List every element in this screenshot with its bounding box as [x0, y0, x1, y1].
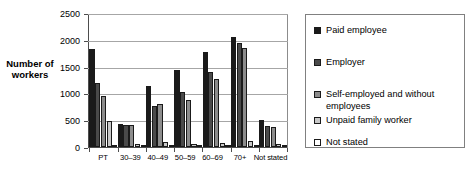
x-axis-label: PT — [89, 153, 116, 167]
y-axis-label: 1000 — [0, 94, 80, 95]
bar — [220, 143, 225, 147]
bar — [135, 144, 140, 147]
x-axis-tick — [146, 148, 147, 152]
legend-swatch-icon — [314, 117, 321, 124]
bar-group — [89, 14, 117, 147]
bar-group — [202, 14, 230, 147]
legend-swatch-icon — [314, 27, 321, 34]
bar — [231, 37, 236, 147]
x-axis-label: 60–69 — [199, 153, 226, 167]
y-axis-label: 0 — [0, 148, 80, 149]
y-axis-label: 2500 — [0, 14, 80, 15]
bar — [259, 120, 264, 147]
bar — [271, 127, 276, 147]
x-axis-label: Not stated — [254, 153, 288, 167]
x-axis-labels: PT30–3940–4950–5960–6970+Not stated — [89, 153, 287, 167]
y-axis-tick — [84, 94, 88, 95]
x-axis-tick — [259, 148, 260, 152]
x-axis-tick — [287, 148, 288, 152]
x-axis-tick — [174, 148, 175, 152]
y-axis-tick — [84, 41, 88, 42]
legend-label: Unpaid family worker — [326, 115, 412, 127]
x-axis-label: 40–49 — [144, 153, 171, 167]
bar — [146, 86, 151, 147]
x-axis-label: 70+ — [226, 153, 253, 167]
bar — [265, 126, 270, 147]
bar — [282, 145, 287, 147]
legend-item[interactable]: Unpaid family worker — [314, 115, 459, 127]
bar — [89, 49, 94, 147]
x-axis-label: 50–59 — [171, 153, 198, 167]
bar — [107, 121, 112, 147]
legend-item[interactable]: Self-employed and without employees — [314, 89, 459, 112]
x-axis-tick — [89, 148, 90, 152]
bar — [191, 144, 196, 147]
bar — [163, 142, 168, 147]
y-axis-label: 2000 — [0, 40, 80, 41]
y-axis-tick — [84, 148, 88, 149]
bar — [123, 125, 128, 147]
bar — [208, 72, 213, 147]
bar — [214, 79, 219, 147]
bar — [186, 100, 191, 147]
bar — [237, 43, 242, 147]
bar — [180, 92, 185, 147]
bar — [276, 144, 281, 147]
grouped-bar-chart: Number of workers 05001000150020002500 P… — [0, 0, 472, 182]
legend-swatch-icon — [314, 139, 321, 146]
bar — [203, 52, 208, 147]
bar — [101, 96, 106, 147]
bar-groups — [89, 14, 287, 147]
bar — [248, 141, 253, 147]
legend-label: Self-employed and without employees — [326, 89, 459, 112]
legend-label: Not stated — [326, 137, 368, 149]
y-axis-label: 500 — [0, 121, 80, 122]
legend-item[interactable]: Not stated — [314, 137, 459, 149]
x-axis-tick — [202, 148, 203, 152]
legend-item[interactable]: Paid employee — [314, 25, 459, 37]
legend-label: Employer — [326, 57, 365, 69]
bar — [118, 124, 123, 147]
legend-swatch-icon — [314, 91, 321, 98]
bar — [152, 106, 157, 147]
bar — [157, 104, 162, 147]
legend-item[interactable]: Employer — [314, 57, 459, 69]
y-axis-title: Number of workers — [4, 58, 56, 80]
y-axis-tick — [84, 14, 88, 15]
x-axis-tick — [118, 148, 119, 152]
bar-group — [174, 14, 202, 147]
bar — [174, 70, 179, 147]
bar-group — [146, 14, 174, 147]
bar-group — [118, 14, 146, 147]
bar — [129, 125, 134, 147]
x-axis-label: 30–39 — [117, 153, 144, 167]
legend: Paid employeeEmployerSelf-employed and w… — [305, 14, 465, 148]
y-axis-tick — [84, 68, 88, 69]
bar — [242, 48, 247, 147]
legend-swatch-icon — [314, 59, 321, 66]
bar-group — [231, 14, 259, 147]
bar — [95, 83, 100, 147]
y-axis-tick — [84, 121, 88, 122]
legend-label: Paid employee — [326, 25, 387, 37]
x-axis-tick — [231, 148, 232, 152]
bar-group — [259, 14, 287, 147]
y-axis-label: 1500 — [0, 67, 80, 68]
